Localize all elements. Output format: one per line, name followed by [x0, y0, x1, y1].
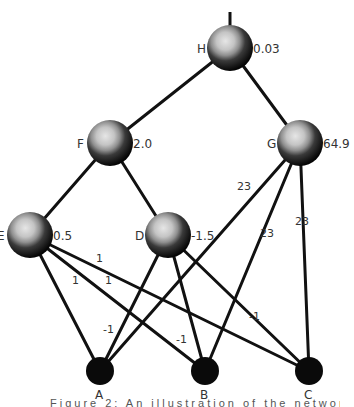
node-label: E [0, 229, 5, 243]
edge-weight-label: -1 [176, 333, 187, 346]
edge-weight-label: 23 [260, 227, 274, 240]
edge-weight-label: -1 [103, 323, 114, 336]
node-value: -1.5 [191, 229, 214, 243]
edge-weight-label: 23 [295, 215, 309, 228]
node-value: 0.5 [53, 229, 72, 243]
node-value: 0.03 [253, 42, 280, 56]
node-F: F2.0 [77, 120, 152, 166]
node-label: G [267, 137, 276, 151]
edge-weight-label: 1 [96, 252, 103, 265]
edge-weight-label: 1 [72, 274, 79, 287]
node-C: C [295, 357, 323, 402]
figure-caption: Figure 2: An illustration of the network… [50, 397, 340, 407]
node-G: G64.9 [267, 120, 350, 166]
node-A: A [86, 357, 114, 402]
node-value: 64.9 [323, 137, 350, 151]
edge-D-C [168, 235, 309, 371]
edge-G-C [300, 143, 309, 371]
node-label: D [135, 229, 144, 243]
node-D: D-1.5 [135, 212, 214, 258]
edge-G-B [205, 143, 300, 371]
edge-weight-label: 1 [105, 274, 112, 287]
node-label: F [77, 137, 84, 151]
node-value: 2.0 [133, 137, 152, 151]
node-label: H [197, 42, 206, 56]
edge-weight-label: -1 [249, 310, 260, 323]
node-B: B [191, 357, 219, 402]
edge-weight-label: 23 [237, 180, 251, 193]
